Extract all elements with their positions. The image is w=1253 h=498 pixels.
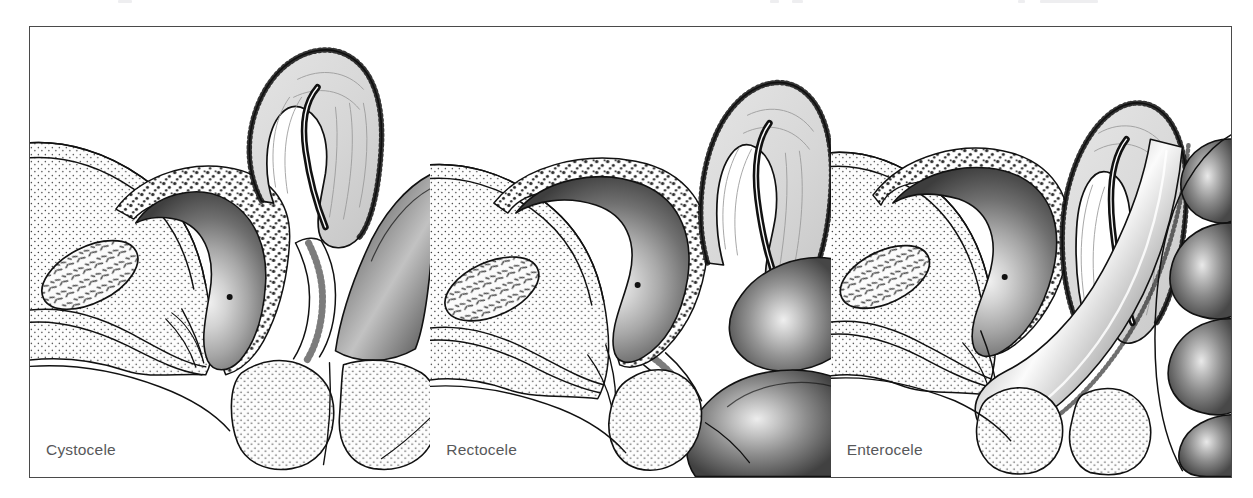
panel-enterocele: Enterocele: [831, 27, 1231, 477]
panel-rectocele: Rectocele: [430, 27, 830, 477]
panel-row: Cystocele: [30, 27, 1231, 477]
cystocele-illustration: [30, 27, 430, 477]
panel-caption-cystocele: Cystocele: [46, 442, 116, 458]
panel-caption-rectocele: Rectocele: [446, 442, 517, 458]
panel-caption-enterocele: Enterocele: [847, 442, 923, 458]
rectocele-illustration: [430, 27, 830, 477]
scan-artifact-strip: [0, 0, 1253, 8]
panel-cystocele: Cystocele: [30, 27, 430, 477]
figure-frame: Cystocele: [29, 26, 1232, 478]
enterocele-illustration: [831, 27, 1231, 477]
